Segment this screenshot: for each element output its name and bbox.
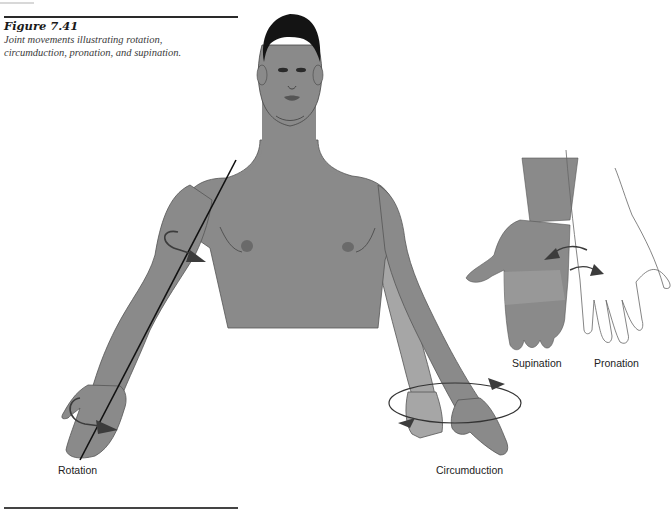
label-circumduction: Circumduction — [436, 464, 503, 476]
right-eye — [296, 68, 306, 72]
circumduction-front-hand — [451, 398, 507, 455]
right-nipple — [342, 242, 354, 252]
rotation-hand — [62, 385, 126, 458]
pronation-arrowhead-icon — [590, 264, 604, 276]
anatomy-illustration — [0, 0, 672, 509]
circumduction-back-hand — [406, 392, 443, 438]
left-nipple — [241, 240, 253, 252]
rotation-arm — [90, 185, 212, 400]
circumduction-arrowhead-right-icon — [488, 378, 505, 390]
label-pronation: Pronation — [594, 357, 639, 369]
label-rotation: Rotation — [58, 464, 97, 476]
palm-highlight — [504, 270, 565, 305]
label-supination: Supination — [512, 357, 562, 369]
left-ear — [257, 65, 267, 85]
pronation-hand-outline — [566, 150, 670, 343]
right-ear — [313, 65, 323, 85]
left-eye — [278, 68, 288, 72]
rotation-axis-line — [80, 160, 236, 460]
